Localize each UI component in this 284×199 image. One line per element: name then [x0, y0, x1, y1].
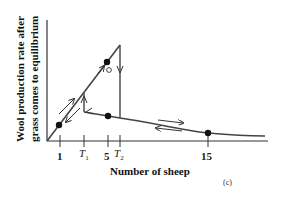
tick-label-1: 1	[57, 150, 63, 162]
y-axis-title-line-1: Wool production rate after	[14, 16, 26, 142]
equilibrium-dot-15	[205, 130, 211, 136]
panel-label: (c)	[223, 178, 232, 187]
y-axis-title: Wool production rate after grass comes t…	[14, 16, 40, 142]
equilibrium-hollow-5	[107, 68, 112, 73]
equilibrium-dot-5-upper	[104, 59, 110, 65]
tick-label-15: 15	[201, 150, 213, 162]
equilibrium-dot-1	[56, 122, 62, 128]
hysteresis-chart: Wool production rate after grass comes t…	[0, 0, 284, 199]
equilibrium-dot-5-lower	[105, 113, 111, 119]
arrow-right-icon	[158, 120, 183, 123]
tick-label-5: 5	[104, 150, 110, 162]
arrow-up-right-icon	[59, 99, 74, 114]
x-axis-title: Number of sheep	[110, 165, 190, 177]
tick-label-t1: T1	[79, 147, 89, 162]
arrow-up-right-near-5-icon	[98, 66, 104, 74]
tick-label-t2: T2	[114, 147, 124, 162]
arrow-down-left-icon	[66, 108, 80, 122]
y-axis-title-line-2: grass comes to equilibrium	[28, 16, 40, 142]
